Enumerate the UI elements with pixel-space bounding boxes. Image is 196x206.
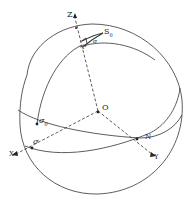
sigma0-label: σ0 <box>39 117 48 127</box>
z-tick-point <box>75 27 77 29</box>
sigma0-label-sub: 0 <box>44 121 47 127</box>
n-point <box>136 138 139 141</box>
s0-label: S0 <box>104 28 113 38</box>
sigma-label: σ <box>33 138 38 146</box>
n-label: N <box>145 134 151 141</box>
z-arrow-icon <box>73 13 77 18</box>
inner-arc <box>80 43 155 60</box>
sphere-diagram: Z S0 σ P O σ0 σ X N Y <box>0 0 196 206</box>
s0-label-sub: 0 <box>109 32 112 38</box>
p-label: P <box>82 44 86 50</box>
origin-label: O <box>102 104 109 112</box>
orbit-arc <box>25 88 180 153</box>
sigma-point <box>31 147 34 150</box>
sigma0-point <box>36 123 39 126</box>
sigma-top-label: σ <box>93 38 97 44</box>
z-axis <box>75 18 98 111</box>
y-axis-label: Y <box>154 154 159 161</box>
origin-point <box>97 111 100 114</box>
z-axis-label: Z <box>67 11 73 19</box>
x-axis-label: X <box>9 151 14 158</box>
meridian-arc <box>37 45 82 124</box>
sphere-drawing <box>0 0 196 206</box>
